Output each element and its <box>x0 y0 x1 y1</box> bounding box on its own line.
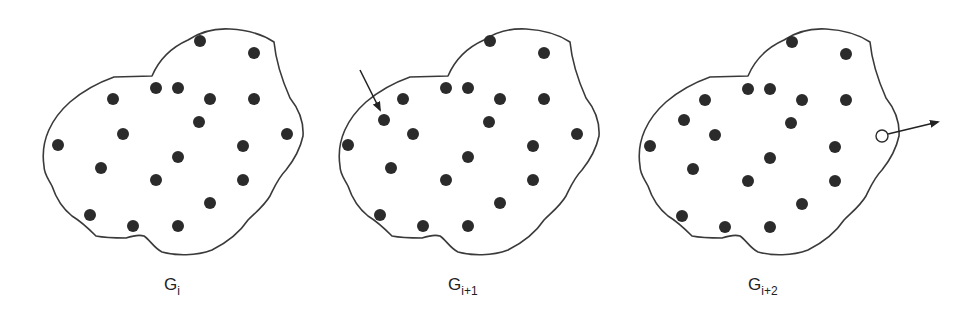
group-node <box>150 82 162 94</box>
group-node <box>440 82 452 94</box>
group-node <box>237 174 249 186</box>
panel-g-i-plus-2: Gi+2 <box>639 29 938 298</box>
group-node <box>764 152 776 164</box>
group-node <box>397 93 409 105</box>
group-node <box>829 141 841 153</box>
group-node <box>127 220 139 232</box>
group-node <box>796 94 808 106</box>
group-node <box>462 151 474 163</box>
group-node <box>786 36 798 48</box>
group-node <box>785 117 797 129</box>
group-node <box>193 116 205 128</box>
group-node <box>527 174 539 186</box>
group-node <box>84 209 96 221</box>
group-node <box>107 93 119 105</box>
group-node <box>676 210 688 222</box>
group-node <box>687 163 699 175</box>
group-node <box>644 140 656 152</box>
group-node <box>407 128 419 140</box>
group-node <box>117 128 129 140</box>
group-node <box>248 93 260 105</box>
group-node <box>829 175 841 187</box>
group-node <box>172 151 184 163</box>
panel-g-i-plus-1: Gi+1 <box>339 29 599 298</box>
group-node <box>494 93 506 105</box>
group-node <box>204 197 216 209</box>
group-evolution-diagram: Gi Gi+1 Gi+2 <box>0 0 978 322</box>
panel-label: Gi+1 <box>448 275 478 298</box>
group-node <box>483 116 495 128</box>
group-node <box>374 209 386 221</box>
leave-arrow-icon <box>888 122 938 134</box>
node-group <box>52 35 293 232</box>
group-node <box>527 140 539 152</box>
panel-g-i: Gi <box>43 29 303 298</box>
group-node <box>204 93 216 105</box>
group-node <box>440 174 452 186</box>
group-node <box>385 162 397 174</box>
group-node <box>699 94 711 106</box>
group-node <box>237 140 249 152</box>
joined-node <box>678 114 690 126</box>
node-group <box>644 36 852 233</box>
group-boundary <box>639 29 899 255</box>
group-node <box>150 174 162 186</box>
group-node <box>742 175 754 187</box>
panel-label: Gi+2 <box>748 275 778 298</box>
group-node <box>95 162 107 174</box>
group-node <box>742 83 754 95</box>
group-node <box>417 220 429 232</box>
group-node <box>462 220 474 232</box>
panel-label: Gi <box>164 275 180 298</box>
group-node <box>764 83 776 95</box>
group-node <box>172 220 184 232</box>
group-node <box>52 139 64 151</box>
group-node <box>484 35 496 47</box>
group-node <box>494 197 506 209</box>
group-node <box>538 93 550 105</box>
group-node <box>796 198 808 210</box>
node-group <box>342 35 583 232</box>
leaving-node <box>876 130 888 142</box>
group-node <box>248 47 260 59</box>
group-node <box>538 47 550 59</box>
group-node <box>571 128 583 140</box>
group-node <box>342 139 354 151</box>
new-node <box>378 114 390 126</box>
group-node <box>840 48 852 60</box>
group-boundary <box>43 29 303 255</box>
group-node <box>194 35 206 47</box>
group-node <box>764 221 776 233</box>
group-node <box>709 129 721 141</box>
group-node <box>281 128 293 140</box>
group-node <box>172 82 184 94</box>
group-node <box>462 82 474 94</box>
group-node <box>719 221 731 233</box>
group-node <box>840 94 852 106</box>
